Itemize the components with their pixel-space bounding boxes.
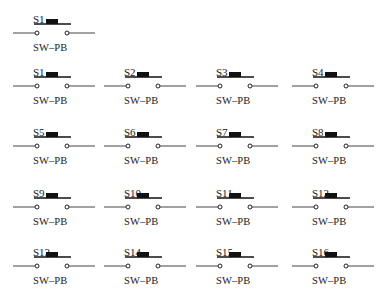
component-value: SW–PB [33, 95, 67, 106]
push-button-switch: S11 SW–PB [196, 188, 280, 228]
reference-designator: S16 [312, 247, 329, 258]
reference-designator: S15 [216, 247, 233, 258]
reference-designator: S11 [216, 188, 233, 199]
push-button-switch: S9 SW–PB [13, 188, 97, 228]
reference-designator: S12 [312, 188, 329, 199]
reference-designator: S4 [312, 67, 324, 78]
push-button-switch: S15 SW–PB [196, 247, 280, 287]
push-button-switch: S5 SW–PB [13, 127, 97, 167]
reference-designator: S1 [33, 67, 45, 78]
push-button-switch: S1 SW–PB [13, 14, 97, 54]
push-button-switch: S16 SW–PB [292, 247, 376, 287]
component-value: SW–PB [216, 95, 250, 106]
reference-designator: S5 [33, 127, 45, 138]
push-button-switch: S4 SW–PB [292, 67, 376, 107]
push-button-switch: S2 SW–PB [104, 67, 188, 107]
component-value: SW–PB [33, 275, 67, 286]
reference-designator: S10 [124, 188, 141, 199]
push-button-switch: S1 SW–PB [13, 67, 97, 107]
reference-designator: S6 [124, 127, 136, 138]
push-button-switch: S8 SW–PB [292, 127, 376, 167]
component-value: SW–PB [33, 42, 67, 53]
component-value: SW–PB [124, 155, 158, 166]
component-value: SW–PB [124, 95, 158, 106]
reference-designator: S9 [33, 188, 45, 199]
component-value: SW–PB [216, 216, 250, 227]
push-button-switch: S14 SW–PB [104, 247, 188, 287]
push-button-switch: S10 SW–PB [104, 188, 188, 228]
push-button-switch: S13 SW–PB [13, 247, 97, 287]
reference-designator: S13 [33, 247, 50, 258]
push-button-switch: S6 SW–PB [104, 127, 188, 167]
reference-designator: S7 [216, 127, 228, 138]
reference-designator: S2 [124, 67, 136, 78]
reference-designator: S1 [33, 14, 45, 25]
component-value: SW–PB [33, 216, 67, 227]
component-value: SW–PB [216, 155, 250, 166]
reference-designator: S8 [312, 127, 324, 138]
component-value: SW–PB [312, 95, 346, 106]
component-value: SW–PB [312, 216, 346, 227]
component-value: SW–PB [216, 275, 250, 286]
component-value: SW–PB [124, 275, 158, 286]
component-value: SW–PB [124, 216, 158, 227]
component-value: SW–PB [312, 155, 346, 166]
push-button-switch: S7 SW–PB [196, 127, 280, 167]
push-button-switch: S12 SW–PB [292, 188, 376, 228]
component-value: SW–PB [312, 275, 346, 286]
reference-designator: S14 [124, 247, 141, 258]
reference-designator: S3 [216, 67, 228, 78]
component-value: SW–PB [33, 155, 67, 166]
push-button-switch: S3 SW–PB [196, 67, 280, 107]
